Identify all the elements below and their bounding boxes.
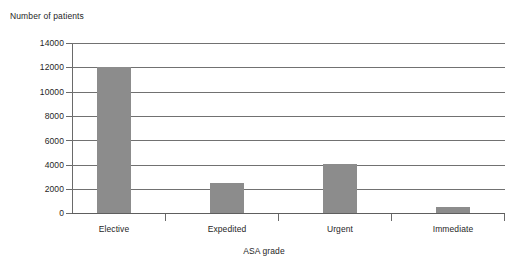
bar-elective	[97, 67, 131, 213]
x-tick-mark	[278, 214, 279, 221]
x-tick-label-immediate: Immediate	[433, 224, 474, 234]
x-tick-label-elective: Elective	[99, 224, 130, 234]
x-axis-line	[72, 213, 505, 214]
x-axis-title-text: ASA grade	[243, 246, 285, 256]
y-tick-label: 12000	[12, 63, 64, 72]
gridline	[72, 165, 505, 166]
bar-urgent	[323, 164, 357, 213]
gridline	[72, 140, 505, 141]
x-tick-label-expedited: Expedited	[208, 224, 247, 234]
y-tick-label: 14000	[12, 39, 64, 48]
x-tick-mark	[504, 214, 505, 221]
y-tick-label: 8000	[12, 112, 64, 121]
y-tick-label: 0	[12, 209, 64, 218]
x-axis-title: ASA grade	[0, 246, 518, 256]
x-tick-label-urgent: Urgent	[327, 224, 353, 234]
bar-chart: Number of patients 14000 12000 10000 800…	[0, 0, 518, 273]
gridline	[72, 92, 505, 93]
gridline	[72, 67, 505, 68]
y-tick-label: 2000	[12, 185, 64, 194]
y-axis-tick-labels: 14000 12000 10000 8000 6000 4000 2000 0	[8, 0, 64, 273]
gridline	[72, 116, 505, 117]
y-tick-label: 10000	[12, 88, 64, 97]
bar-immediate	[436, 207, 470, 213]
y-tick-label: 4000	[12, 161, 64, 170]
gridline	[72, 189, 505, 190]
y-tick-label: 6000	[12, 137, 64, 146]
bar-expedited	[210, 183, 244, 213]
x-tick-mark	[391, 214, 392, 221]
gridline	[72, 43, 505, 44]
x-tick-mark	[165, 214, 166, 221]
plot-area	[72, 43, 505, 213]
